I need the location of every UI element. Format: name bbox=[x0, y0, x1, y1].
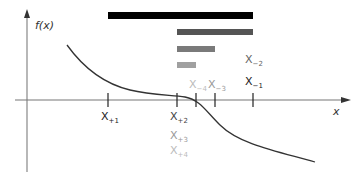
label-x-minus2: X−2 bbox=[245, 54, 263, 70]
label-x-minus3: X−3 bbox=[208, 79, 226, 95]
label-x-plus4: X+4 bbox=[170, 145, 188, 161]
x-axis-label: x bbox=[333, 106, 340, 117]
bar-2 bbox=[177, 29, 253, 35]
y-axis-arrow-icon bbox=[24, 9, 30, 18]
label-x-plus1: X+1 bbox=[101, 111, 119, 127]
x-axis-arrow-icon bbox=[341, 97, 351, 103]
label-x-minus1: X−1 bbox=[245, 76, 263, 92]
bar-1 bbox=[108, 12, 253, 19]
bar-4 bbox=[177, 62, 196, 68]
label-x-plus2: X+2 bbox=[170, 111, 188, 127]
bar-3 bbox=[177, 46, 215, 52]
y-axis-label: f(x) bbox=[35, 20, 54, 31]
label-x-minus4: X−4 bbox=[189, 79, 207, 95]
